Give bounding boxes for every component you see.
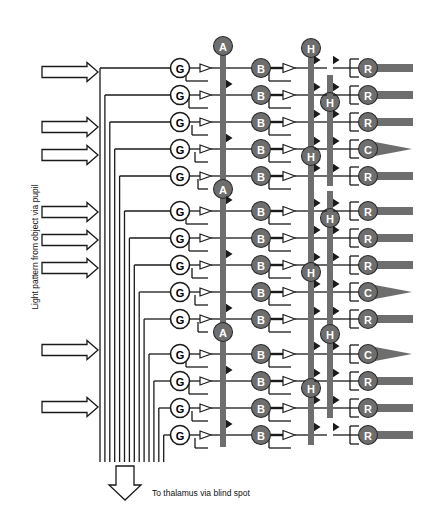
rod-outer-segment-2 [375, 91, 413, 99]
rod-outer-segment-10 [375, 315, 413, 323]
cone-cell-9-label: C [364, 287, 372, 299]
rod-cell-7-label: R [364, 233, 372, 245]
bipolar-axon-tip-4 [283, 145, 295, 154]
ganglion-cell-5-label: G [176, 171, 185, 183]
ganglion-axon-tip-8 [200, 261, 211, 269]
ganglion-axon-tip-10 [200, 315, 211, 323]
ganglion-cell-9-label: G [176, 287, 185, 299]
cone-cell-4-label: C [364, 144, 372, 156]
ganglion-axon-tip-2 [200, 91, 211, 99]
cone-outer-segment-11 [375, 347, 412, 361]
light-arrow-4 [42, 203, 98, 222]
amacrine-synapse-10 [226, 304, 233, 312]
ganglion-cell-1-label: G [176, 63, 185, 75]
horizontal-cell-4-label: H [326, 213, 334, 225]
retina-circuit-figure: AAAGGGGGGGGGGGGGGBBBBBBBBBBBBBBHHHHHHHRR… [0, 0, 421, 526]
horizontal-synapse-a-3 [314, 110, 321, 118]
bipolar-cell-6-label: B [257, 206, 265, 218]
horizontal-synapse-b-9 [333, 280, 340, 288]
bipolar-axon-tip-12 [283, 377, 295, 386]
amacrine-synapse-14 [226, 420, 233, 428]
rod-outer-segment-12 [375, 377, 413, 385]
amacrine-to-bipolar [226, 68, 252, 435]
bipolar-axon-tip-13 [283, 404, 295, 413]
horizontal-cell-3-label: H [307, 151, 315, 163]
bipolar-axon-tip-6 [283, 207, 295, 216]
horizontal-synapse-a-6 [314, 199, 321, 207]
bipolar-cell-12-label: B [257, 376, 265, 388]
rod-cell-13-label: R [364, 403, 372, 415]
horizontal-layer: HHHHHHH [302, 39, 340, 446]
horizontal-bar-b1 [327, 75, 333, 186]
horizontal-synapse-a-5 [314, 164, 321, 172]
horizontal-cell-6-label: H [326, 329, 334, 341]
horizontal-synapse-a-13 [314, 396, 321, 404]
output-arrow [109, 466, 141, 500]
light-arrow-1 [42, 63, 98, 82]
horizontal-synapse-b-2 [333, 83, 340, 91]
bipolar-cell-8-label: B [257, 260, 265, 272]
bipolar-cell-14-label: B [257, 430, 265, 442]
rod-cell-2-label: R [364, 90, 372, 102]
horizontal-bar-a2 [308, 156, 314, 275]
horizontal-synapse-b-7 [333, 226, 340, 234]
rod-outer-segment-14 [375, 431, 413, 439]
ganglion-axon-tip-4 [200, 145, 211, 153]
ganglion-cell-2-label: G [176, 90, 185, 102]
bipolar-axon-tip-9 [283, 288, 295, 297]
rod-cell-5-label: R [364, 171, 372, 183]
cone-cell-11-label: C [364, 349, 372, 361]
horizontal-synapse-b-14 [333, 423, 340, 431]
light-arrow-6 [42, 259, 98, 278]
horizontal-synapse-b-5 [333, 164, 340, 172]
ganglion-layer: GGGGGGGGGGGGGG [171, 59, 221, 449]
ganglion-axon-tip-13 [200, 404, 211, 412]
horizontal-synapse-a-4 [314, 137, 321, 145]
rod-cell-12-label: R [364, 376, 372, 388]
bipolar-axon-tip-10 [283, 315, 295, 324]
ganglion-cell-3-label: G [176, 117, 185, 129]
ganglion-axon-tip-5 [200, 172, 211, 180]
horizontal-synapse-b-1 [333, 56, 340, 64]
ganglion-axon-tip-3 [200, 118, 211, 126]
bipolar-axon-tip-8 [283, 261, 295, 270]
horizontal-synapse-a-14 [314, 423, 321, 431]
horizontal-cell-5-label: H [307, 267, 315, 279]
horizontal-synapse-a-7 [314, 226, 321, 234]
ganglion-axon-tip-12 [200, 377, 211, 385]
ganglion-cell-4-label: G [176, 144, 185, 156]
horizontal-bar-b2 [327, 191, 333, 302]
bipolar-axon-tip-1 [283, 64, 295, 73]
horizontal-synapse-a-8 [314, 253, 321, 261]
horizontal-bar-a1 [308, 48, 314, 159]
bipolar-cell-10-label: B [257, 314, 265, 326]
light-arrow-2 [42, 118, 98, 137]
horizontal-synapse-b-10 [333, 307, 340, 315]
ganglion-axon-tip-11 [200, 350, 211, 358]
rod-cell-1-label: R [364, 63, 372, 75]
bipolar-cell-11-label: B [257, 349, 265, 361]
ganglion-output-bundle [100, 68, 171, 500]
bipolar-cell-1-label: B [257, 63, 265, 75]
bipolar-axon-tip-14 [283, 431, 295, 440]
light-arrow-7 [42, 341, 98, 360]
bipolar-axon-tip-3 [283, 118, 295, 127]
rod-cell-6-label: R [364, 206, 372, 218]
bipolar-cell-9-label: B [257, 287, 265, 299]
amacrine-synapse-2 [226, 80, 233, 88]
bipolar-axon-tip-7 [283, 234, 295, 243]
rod-outer-segment-6 [375, 207, 413, 215]
ganglion-axon-tip-14 [200, 431, 211, 439]
ganglion-cell-12-label: G [176, 376, 185, 388]
bipolar-cell-7-label: B [257, 233, 265, 245]
horizontal-synapse-b-3 [333, 110, 340, 118]
rod-cell-14-label: R [364, 430, 372, 442]
ganglion-cell-6-label: G [176, 206, 185, 218]
horizontal-synapse-a-9 [314, 280, 321, 288]
horizontal-synapse-b-12 [333, 369, 340, 377]
bipolar-axon-tip-2 [283, 91, 295, 100]
horizontal-cell-2-label: H [326, 97, 334, 109]
horizontal-synapse-a-11 [314, 342, 321, 350]
rod-outer-segment-7 [375, 234, 413, 242]
rod-cell-3-label: R [364, 117, 372, 129]
